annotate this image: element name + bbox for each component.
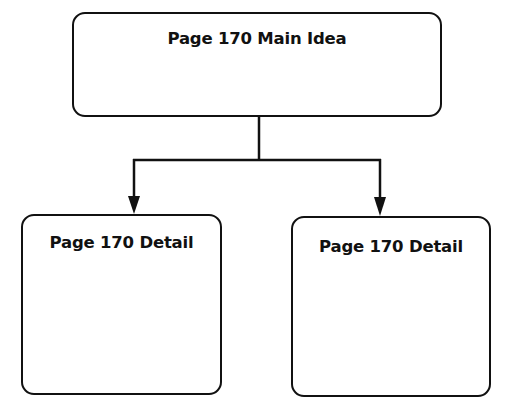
main-idea-box: Page 170 Main Idea — [72, 12, 442, 117]
left-arrowhead-icon — [128, 196, 140, 214]
detail-label-left: Page 170 Detail — [23, 233, 220, 252]
main-idea-label: Page 170 Main Idea — [74, 29, 440, 48]
detail-box-right: Page 170 Detail — [291, 216, 491, 397]
detail-label-right: Page 170 Detail — [293, 237, 489, 256]
detail-box-left: Page 170 Detail — [21, 214, 222, 395]
right-arrowhead-icon — [374, 197, 386, 216]
